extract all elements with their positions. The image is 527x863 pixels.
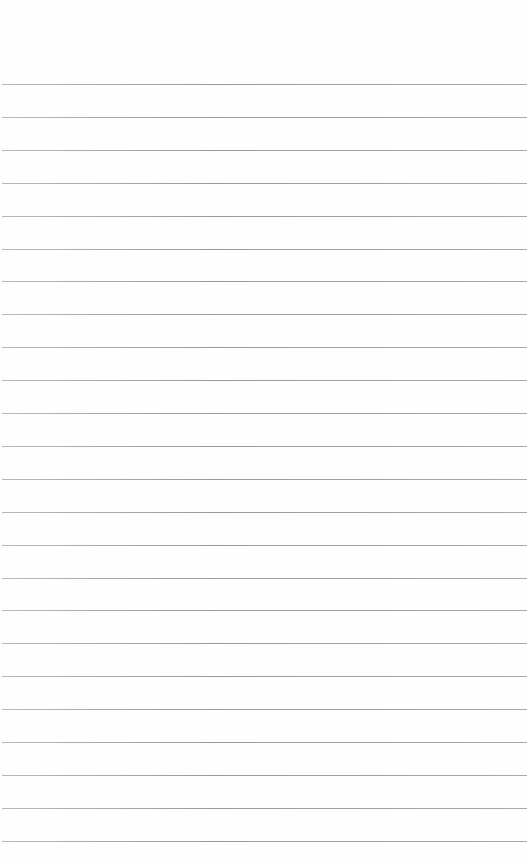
ruled-line (2, 512, 527, 513)
ruled-line (2, 281, 527, 282)
ruled-line (2, 709, 527, 710)
ruled-line (2, 314, 527, 315)
ruled-line (2, 775, 527, 776)
ruled-line (2, 742, 527, 743)
ruled-line (2, 216, 527, 217)
ruled-line (2, 545, 527, 546)
ruled-line (2, 380, 527, 381)
ruled-line (2, 249, 527, 250)
ruled-line (2, 150, 527, 151)
ruled-line (2, 479, 527, 480)
ruled-line (2, 446, 527, 447)
ruled-line (2, 578, 527, 579)
ruled-line (2, 183, 527, 184)
lined-paper-page (0, 0, 527, 863)
ruled-line (2, 347, 527, 348)
ruled-line (2, 413, 527, 414)
ruled-line (2, 676, 527, 677)
ruled-line (2, 643, 527, 644)
ruled-line (2, 808, 527, 809)
ruled-line (2, 84, 527, 85)
ruled-line (2, 117, 527, 118)
ruled-line (2, 610, 527, 611)
ruled-line (2, 841, 527, 842)
